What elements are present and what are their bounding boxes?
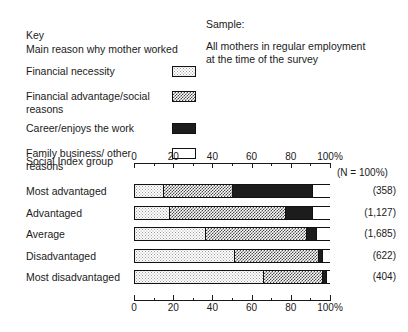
axis-tick-major	[173, 163, 174, 168]
axis-tick-label: 60	[246, 151, 257, 162]
bar-segment	[235, 250, 319, 262]
key-item-label: Financial advantage/social reasons	[26, 90, 154, 115]
key-item-label: Financial necessity	[26, 65, 154, 78]
axis-tick-label: 80	[285, 302, 296, 313]
axis-tick-minor	[310, 163, 311, 166]
bar-segment	[313, 185, 331, 197]
key-item-financial-necessity: Financial necessity	[26, 65, 206, 83]
bar-row: Disadvantaged(622)	[0, 249, 408, 263]
axis-tick-major	[134, 163, 135, 168]
bar-segment	[135, 207, 170, 219]
bar-row: Most advantaged(358)	[0, 184, 408, 198]
bar-row-label: Disadvantaged	[26, 250, 96, 262]
bar-segment	[135, 250, 235, 262]
sample-line-2: at the time of the survey	[206, 53, 365, 66]
axis-title: Social Index group	[26, 155, 113, 167]
bar-segment	[264, 271, 323, 283]
stacked-bar-chart: Social Index group (N = 100%) 0204060801…	[0, 152, 408, 324]
axis-tick-label: 100%	[317, 302, 343, 313]
key-heading: Key	[26, 28, 206, 42]
axis-tick-minor	[232, 163, 233, 166]
key-item-financial-advantage: Financial advantage/social reasons	[26, 90, 206, 115]
axis-tick-major	[134, 295, 135, 301]
bar-row-n-value: (404)	[340, 271, 396, 282]
sample-line-1: All mothers in regular employment	[206, 40, 365, 53]
axis-tick-major	[291, 295, 292, 301]
bar-segment	[286, 207, 313, 219]
bar-segment	[233, 185, 313, 197]
axis-tick-label: 0	[131, 302, 137, 313]
bar-row: Advantaged(1,127)	[0, 206, 408, 220]
axis-tick-minor	[193, 298, 194, 301]
bar-segment	[317, 228, 331, 240]
sample-block: Sample: All mothers in regular employmen…	[206, 17, 365, 66]
axis-tick-minor	[154, 298, 155, 301]
axis-tick-label: 100%	[317, 151, 343, 162]
axis-tick-major	[252, 163, 253, 168]
sample-heading: Sample:	[206, 17, 365, 31]
bar-row-n-value: (622)	[340, 250, 396, 261]
axis-tick-major	[330, 295, 331, 301]
stacked-bar	[134, 270, 330, 284]
bar-segment	[135, 228, 206, 240]
stacked-bar	[134, 206, 330, 220]
swatch-medium-checker-icon	[172, 91, 196, 102]
bar-row-n-value: (1,127)	[340, 207, 396, 218]
stacked-bar	[134, 227, 330, 241]
bar-segment	[135, 271, 264, 283]
axis-tick-major	[330, 163, 331, 168]
axis-tick-major	[212, 295, 213, 301]
bar-row: Most disadvantaged(404)	[0, 270, 408, 284]
axis-tick-minor	[271, 298, 272, 301]
bar-segment	[164, 185, 233, 197]
bar-segment	[313, 207, 331, 219]
axis-tick-label: 20	[168, 302, 179, 313]
axis-tick-label: 40	[207, 302, 218, 313]
bar-segment	[307, 228, 317, 240]
axis-tick-minor	[232, 298, 233, 301]
swatch-solid-black-icon	[172, 123, 196, 134]
axis-tick-label: 60	[246, 302, 257, 313]
key-subheading: Main reason why mother worked	[26, 42, 206, 56]
key-item-label: Career/enjoys the work	[26, 122, 154, 135]
bar-segment	[206, 228, 308, 240]
bar-row-label: Average	[26, 228, 65, 240]
key-item-career: Career/enjoys the work	[26, 122, 206, 140]
stacked-bar	[134, 184, 330, 198]
axis-tick-label: 80	[285, 151, 296, 162]
bar-segment	[327, 271, 331, 283]
bar-segment	[170, 207, 286, 219]
n-note: (N = 100%)	[337, 167, 388, 178]
bar-row-label: Advantaged	[26, 207, 82, 219]
stacked-bar	[134, 249, 330, 263]
bar-row-label: Most advantaged	[26, 185, 107, 197]
bottom-axis: 020406080100%	[134, 295, 330, 305]
bar-row: Average(1,685)	[0, 227, 408, 241]
axis-tick-label: 20	[168, 151, 179, 162]
swatch-light-stipple-icon	[172, 66, 196, 77]
axis-tick-major	[252, 295, 253, 301]
bar-row-n-value: (358)	[340, 185, 396, 196]
axis-tick-minor	[310, 298, 311, 301]
bar-segment	[135, 185, 164, 197]
axis-tick-major	[173, 295, 174, 301]
bar-row-label: Most disadvantaged	[26, 271, 120, 283]
axis-tick-label: 40	[207, 151, 218, 162]
axis-tick-minor	[154, 163, 155, 166]
axis-tick-label: 0	[131, 151, 137, 162]
axis-tick-major	[291, 163, 292, 168]
top-axis: 020406080100%	[134, 163, 330, 173]
bar-segment	[323, 250, 331, 262]
axis-tick-minor	[193, 163, 194, 166]
axis-tick-major	[212, 163, 213, 168]
bar-row-n-value: (1,685)	[340, 228, 396, 239]
axis-tick-minor	[271, 163, 272, 166]
